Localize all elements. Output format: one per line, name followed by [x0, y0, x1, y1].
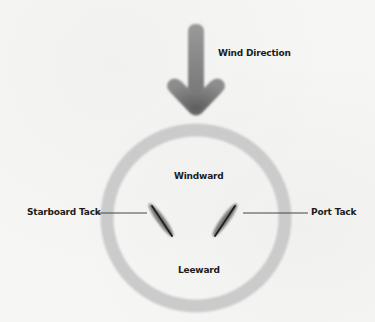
starboard-tack-label: Starboard Tack [27, 207, 101, 217]
down-arrow-icon [167, 24, 225, 116]
starboard-boat-icon [146, 201, 176, 238]
windward-label: Windward [174, 171, 224, 181]
port-boat-icon [210, 201, 240, 238]
wind-zone-circle [107, 130, 285, 306]
leeward-label: Leeward [178, 265, 220, 275]
wind-direction-label: Wind Direction [218, 48, 291, 58]
port-tack-label: Port Tack [311, 207, 356, 217]
